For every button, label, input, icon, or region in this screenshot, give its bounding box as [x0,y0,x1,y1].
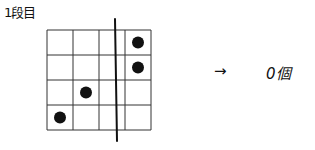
divider-line [115,19,117,141]
result-count: 0個 [266,62,291,83]
grid-dot [132,62,144,74]
grid-dot [54,112,66,124]
grid-dot [132,37,144,49]
grid-dot [80,87,92,99]
arrow-icon: → [214,62,227,80]
